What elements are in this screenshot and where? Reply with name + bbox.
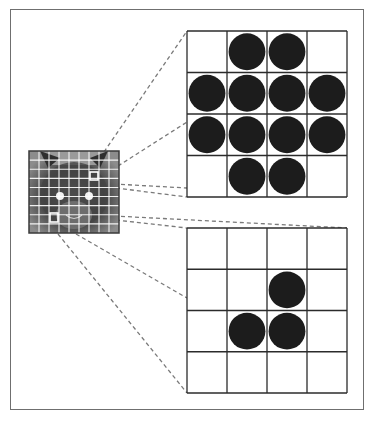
filled-dot [269, 116, 306, 153]
connector-line [118, 122, 187, 166]
filled-dot [269, 33, 306, 70]
connector-line [116, 188, 187, 197]
filled-dot [309, 116, 346, 153]
connector-line [114, 184, 187, 188]
connector-line [104, 31, 187, 152]
filled-dot [189, 116, 226, 153]
filled-dot [229, 313, 266, 350]
connector-line [58, 234, 187, 393]
filled-dot [229, 75, 266, 112]
connector-line [76, 234, 187, 298]
bottom-patch-grid [187, 228, 347, 393]
filled-dot [269, 158, 306, 195]
filled-dot [269, 271, 306, 308]
filled-dot [229, 116, 266, 153]
cat-face-icon [29, 151, 119, 233]
filled-dot [269, 75, 306, 112]
connector-line [116, 220, 187, 228]
source-image [29, 151, 119, 233]
filled-dot [229, 33, 266, 70]
filled-dot [189, 75, 226, 112]
filled-dot [269, 313, 306, 350]
diagram-canvas [0, 0, 376, 424]
cat-eye-left [56, 192, 64, 200]
top-patch-grid [187, 31, 347, 197]
connector-line [114, 216, 347, 228]
filled-dot [309, 75, 346, 112]
filled-dot [229, 158, 266, 195]
